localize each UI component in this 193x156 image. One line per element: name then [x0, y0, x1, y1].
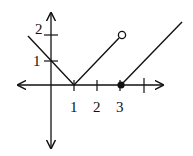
series-piece-2: [121, 22, 182, 85]
x-tick-label-2: 2: [93, 99, 101, 115]
y-tick-label-1: 1: [33, 53, 41, 69]
filled-circle-marker: [117, 81, 124, 88]
open-circle-marker: [118, 31, 125, 38]
x-tick-label-3: 3: [116, 99, 124, 115]
piecewise-graph: 1 2 3 1 2: [0, 0, 193, 156]
y-tick-label-2: 2: [35, 21, 43, 37]
series-piece-1: [28, 36, 119, 85]
x-tick-label-1: 1: [70, 99, 78, 115]
